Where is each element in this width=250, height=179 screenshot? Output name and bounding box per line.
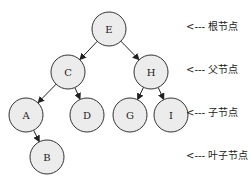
tree-node-B: B <box>30 140 64 174</box>
annotation-child: <--- 子节点 <box>186 104 238 119</box>
annotation-leaf: <--- 叶子节点 <box>186 147 248 162</box>
tree-node-C: C <box>51 55 85 89</box>
tree-node-I: I <box>154 98 188 132</box>
node-label: D <box>83 110 91 121</box>
tree-node-G: G <box>113 98 147 132</box>
node-label: C <box>64 67 72 78</box>
node-label: I <box>169 110 173 121</box>
edge-E-C <box>80 41 98 59</box>
annotation-parent: <--- 父节点 <box>186 61 238 76</box>
node-label: B <box>43 152 50 163</box>
edge-C-A <box>38 84 56 103</box>
node-label: G <box>126 110 134 121</box>
node-label: A <box>21 110 30 121</box>
edge-C-D <box>75 88 80 100</box>
node-label: H <box>147 67 156 78</box>
edge-H-G <box>137 87 143 99</box>
tree-node-E: E <box>92 12 126 46</box>
annotation-root: <--- 根节点 <box>186 18 238 33</box>
tree-node-H: H <box>134 55 168 89</box>
edge-E-H <box>121 41 139 60</box>
edge-A-B <box>34 130 40 142</box>
edge-H-I <box>158 87 164 99</box>
tree-node-A: A <box>9 98 43 132</box>
tree-node-D: D <box>70 98 104 132</box>
node-label: E <box>105 24 112 35</box>
